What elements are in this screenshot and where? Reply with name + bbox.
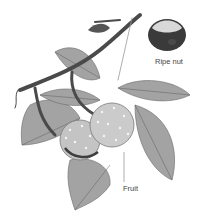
ripe-nut-label: Ripe nut	[155, 57, 183, 66]
fruit-label: Fruit	[123, 184, 138, 193]
ripe-nut-illustration	[148, 19, 186, 51]
leaf-right-upper	[118, 81, 190, 101]
leaf-bottom	[68, 159, 110, 210]
bud	[88, 24, 110, 33]
leaf-right-lower	[135, 105, 175, 180]
fruit-right	[90, 103, 134, 147]
botanical-illustration	[0, 0, 205, 217]
